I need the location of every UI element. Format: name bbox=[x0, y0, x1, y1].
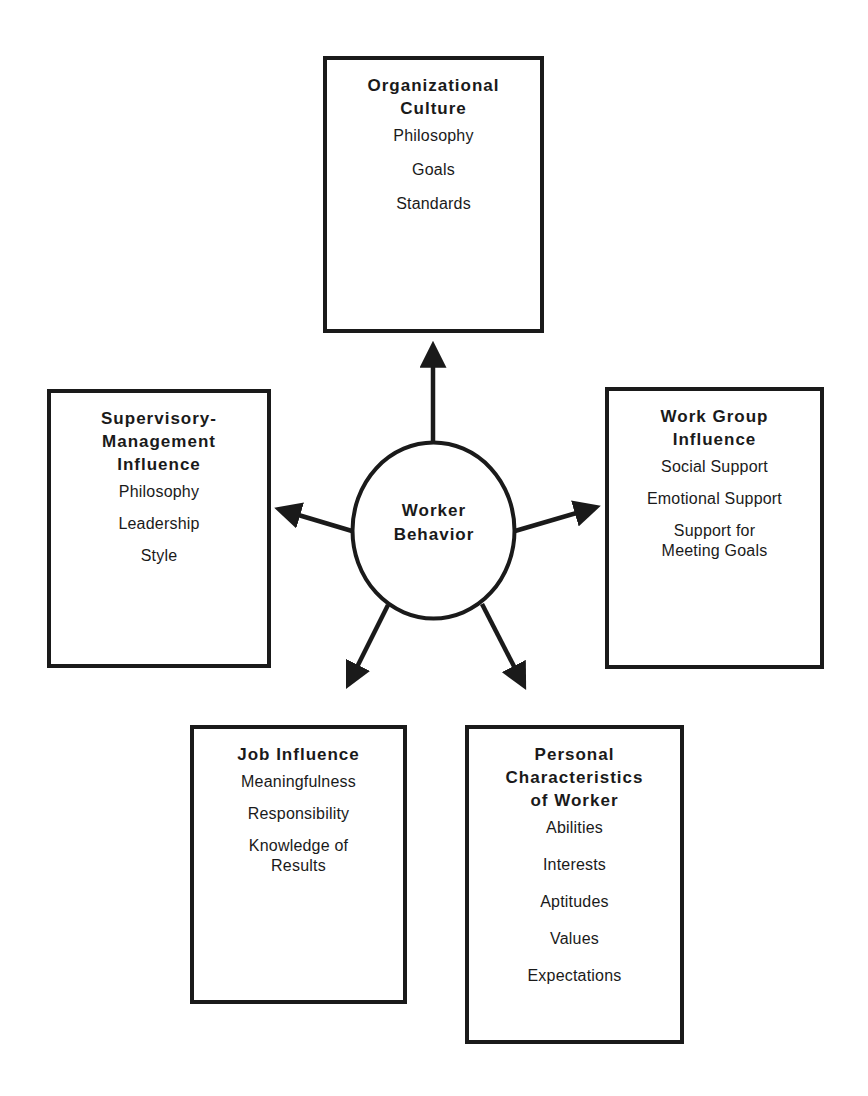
list-item: Leadership bbox=[57, 514, 261, 534]
box-title: Job Influence bbox=[200, 743, 397, 766]
box-item-list: Philosophy Goals Standards bbox=[327, 126, 540, 214]
box-item-list: Meaningfulness Responsibility Knowledge … bbox=[194, 772, 403, 876]
box-item-list: Philosophy Leadership Style bbox=[51, 482, 267, 566]
list-item: Standards bbox=[333, 194, 534, 214]
box-item-list: Social Support Emotional Support Support… bbox=[609, 457, 820, 561]
arrow-to-job-influence bbox=[351, 605, 388, 679]
personal-characteristics-box: Personal Characteristics of Worker Abili… bbox=[465, 725, 684, 1044]
list-item: Expectations bbox=[475, 966, 674, 986]
list-item: Emotional Support bbox=[615, 489, 814, 509]
list-item: Style bbox=[57, 546, 261, 566]
job-influence-box: Job Influence Meaningfulness Responsibil… bbox=[190, 725, 407, 1004]
list-item: Meaningfulness bbox=[200, 772, 397, 792]
box-title: Work Group Influence bbox=[615, 405, 814, 451]
list-item: Philosophy bbox=[333, 126, 534, 146]
worker-behavior-label: Worker Behavior bbox=[352, 499, 516, 547]
work-group-influence-box: Work Group Influence Social Support Emot… bbox=[605, 387, 824, 669]
box-title: Organizational Culture bbox=[333, 74, 534, 120]
arrow-to-personal-characteristics bbox=[482, 604, 521, 680]
list-item: Responsibility bbox=[200, 804, 397, 824]
list-item: Philosophy bbox=[57, 482, 261, 502]
arrow-to-supervisory-management bbox=[285, 511, 352, 531]
list-item: Social Support bbox=[615, 457, 814, 477]
list-item: Interests bbox=[475, 855, 674, 875]
list-item: Values bbox=[475, 929, 674, 949]
box-title: Personal Characteristics of Worker bbox=[475, 743, 674, 812]
organizational-culture-box: Organizational Culture Philosophy Goals … bbox=[323, 56, 544, 333]
box-item-list: Abilities Interests Aptitudes Values Exp… bbox=[469, 818, 680, 986]
arrow-to-work-group bbox=[515, 509, 590, 531]
box-title: Supervisory- Management Influence bbox=[57, 407, 261, 476]
supervisory-management-box: Supervisory- Management Influence Philos… bbox=[47, 389, 271, 668]
list-item: Support for Meeting Goals bbox=[615, 521, 814, 561]
list-item: Abilities bbox=[475, 818, 674, 838]
list-item: Goals bbox=[333, 160, 534, 180]
list-item: Knowledge of Results bbox=[200, 836, 397, 876]
list-item: Aptitudes bbox=[475, 892, 674, 912]
